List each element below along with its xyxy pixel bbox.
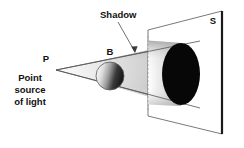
shadow-diagram-figure: Shadow B P S Point source of light bbox=[0, 0, 244, 148]
shadow-leader bbox=[118, 22, 138, 53]
label-source-p: P bbox=[43, 53, 50, 64]
umbra-ellipse bbox=[162, 43, 200, 105]
caption-line-2: source bbox=[14, 84, 45, 95]
opaque-ball bbox=[96, 62, 124, 90]
caption-line-3: of light bbox=[14, 96, 46, 107]
label-shadow: Shadow bbox=[100, 9, 137, 20]
caption-line-1: Point bbox=[18, 72, 43, 83]
shadow-leader-arrowhead bbox=[131, 46, 137, 53]
ball-sphere bbox=[96, 62, 124, 90]
diagram-canvas: Shadow B P S Point source of light bbox=[0, 0, 244, 148]
label-screen-s: S bbox=[210, 15, 216, 26]
label-ball-b: B bbox=[107, 46, 114, 57]
